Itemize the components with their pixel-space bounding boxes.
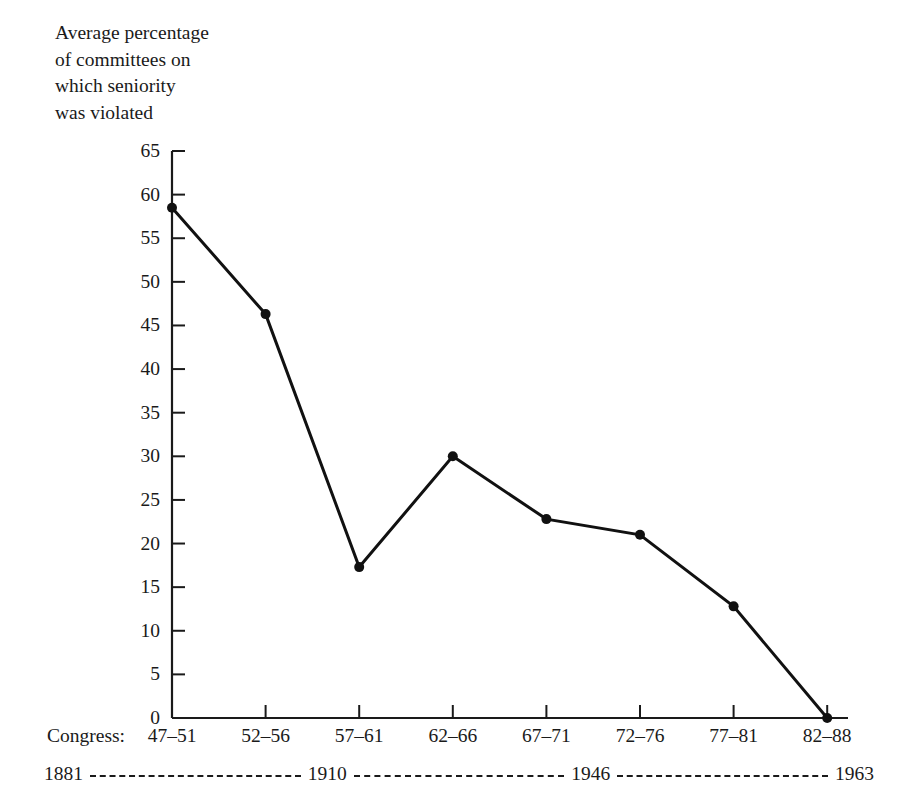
era-dash-segment — [90, 775, 301, 777]
seniority-violation-line-chart: Average percentage of committees on whic… — [0, 0, 900, 796]
y-tick-label: 15 — [100, 577, 160, 597]
y-tick-label: 50 — [100, 272, 160, 292]
y-tick-label: 20 — [100, 534, 160, 554]
era-dash-segment — [354, 775, 565, 777]
data-point — [541, 514, 551, 524]
y-tick-label: 10 — [100, 621, 160, 641]
y-tick-label: 40 — [100, 359, 160, 379]
data-point-markers — [167, 203, 832, 723]
x-axis-ticks — [266, 705, 828, 718]
x-axis-label: Congress: — [47, 726, 125, 746]
era-year: 1910 — [308, 764, 347, 784]
era-year: 1881 — [44, 764, 83, 784]
y-tick-label: 55 — [100, 228, 160, 248]
y-tick-label: 30 — [100, 446, 160, 466]
y-tick-label: 60 — [100, 185, 160, 205]
era-dash-segment — [617, 775, 828, 777]
y-axis-ticks — [172, 151, 185, 718]
y-tick-label: 65 — [100, 141, 160, 161]
y-tick-label: 25 — [100, 490, 160, 510]
data-point — [729, 601, 739, 611]
era-year: 1963 — [835, 764, 874, 784]
data-point — [261, 309, 271, 319]
era-timeline: 1881191019461963 — [44, 760, 874, 788]
data-line — [172, 208, 827, 718]
x-tick-label: 82–88 — [772, 726, 882, 746]
data-point — [635, 530, 645, 540]
data-point — [448, 451, 458, 461]
data-point — [167, 203, 177, 213]
era-year: 1946 — [571, 764, 610, 784]
y-tick-label: 45 — [100, 315, 160, 335]
y-tick-label: 35 — [100, 403, 160, 423]
y-tick-label: 5 — [100, 664, 160, 684]
data-point — [354, 562, 364, 572]
data-point — [822, 713, 832, 723]
axis-lines — [172, 151, 848, 718]
